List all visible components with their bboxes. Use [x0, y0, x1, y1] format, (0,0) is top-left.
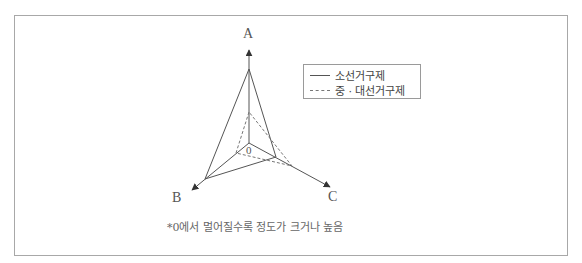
dashed-line-swatch — [310, 90, 330, 91]
legend-item-solid: 소선거구제 — [310, 68, 385, 82]
origin-label: 0 — [246, 145, 252, 156]
legend-item-dashed: 중 · 대선거구제 — [310, 83, 406, 97]
axis-label-c: C — [328, 190, 337, 204]
axis-b — [192, 143, 249, 190]
series-small-district — [205, 69, 276, 179]
legend: 소선거구제 중 · 대선거구제 — [303, 64, 421, 99]
legend-label: 중 · 대선거구제 — [335, 82, 406, 98]
axis-label-b: B — [172, 191, 181, 205]
footnote: *0에서 멀어질수록 정도가 크거나 높음 — [167, 218, 344, 234]
solid-line-swatch — [310, 75, 330, 76]
series-medium-large-district — [236, 112, 292, 166]
axis-label-a: A — [243, 27, 253, 41]
legend-label: 소선거구제 — [335, 67, 385, 83]
